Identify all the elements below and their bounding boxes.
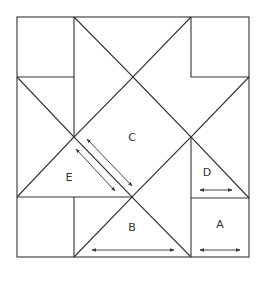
- corner-square-top-right: [191, 17, 249, 77]
- grain-arrow-c: [87, 139, 132, 186]
- corner-square-top-left: [17, 17, 74, 77]
- top-triangles: [74, 17, 191, 77]
- right-triangles: [191, 77, 249, 198]
- label-b: B: [128, 221, 136, 234]
- grain-arrow-e: [76, 149, 115, 191]
- corner-square-bottom-left: [17, 197, 132, 257]
- label-e: E: [66, 171, 73, 184]
- quilt-block-diagram: C E D B A: [0, 0, 261, 281]
- label-c: C: [128, 131, 136, 144]
- label-d: D: [203, 166, 211, 179]
- right-column-divider: [191, 137, 249, 257]
- label-a: A: [216, 218, 224, 231]
